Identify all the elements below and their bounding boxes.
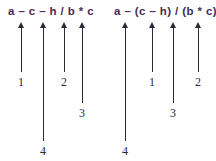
precedence-arrow-up-icon [18,22,25,72]
arrow-shaft [125,26,126,141]
arrow-shaft [21,26,22,72]
precedence-arrow-up-icon [79,22,86,103]
evaluation-order-label: 4 [37,145,49,157]
arrow-shaft [64,26,65,72]
evaluation-order-label: 1 [146,76,158,88]
precedence-arrow-up-icon [40,22,47,141]
operator-precedence-diagram: a – c – h / b * c a – (c – h) / (b * c) … [0,0,216,161]
evaluation-order-label: 1 [15,76,27,88]
arrow-shaft [198,26,199,72]
arrow-shaft [152,26,153,72]
precedence-arrow-up-icon [170,22,177,103]
arrow-shaft [82,26,83,103]
evaluation-order-label: 4 [119,145,131,157]
evaluation-order-label: 2 [58,76,70,88]
evaluation-order-label: 2 [192,76,204,88]
arrow-shaft [173,26,174,103]
evaluation-order-label: 3 [76,107,88,119]
arrow-shaft [43,26,44,141]
precedence-arrow-up-icon [61,22,68,72]
expression-left: a – c – h / b * c [8,4,94,18]
precedence-arrow-up-icon [195,22,202,72]
expression-right: a – (c – h) / (b * c) [114,4,216,18]
precedence-arrow-up-icon [122,22,129,141]
precedence-arrow-up-icon [149,22,156,72]
evaluation-order-label: 3 [167,107,179,119]
